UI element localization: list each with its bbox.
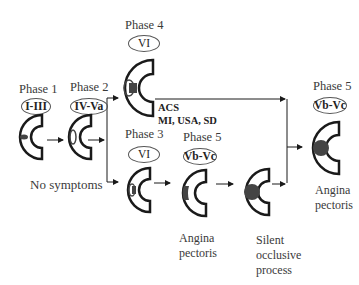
no-symptoms-label: No symptoms	[30, 178, 103, 192]
phase-2-label: Phase 2	[70, 80, 109, 94]
vessel-icon-phase-3	[124, 166, 154, 214]
phase-5-label-middle: Phase 5	[183, 130, 222, 144]
vessel-icon-phase-5-right	[311, 120, 343, 176]
silent-occlusive-process-label: Silent occlusive process	[256, 233, 301, 278]
angina-pectoris-label-right: Angina pectoris	[315, 183, 353, 213]
angina-pectoris-label-middle: Angina pectoris	[179, 231, 217, 261]
stage-badge-vi-top: VI	[128, 35, 160, 52]
phase-1-label: Phase 1	[19, 82, 58, 96]
stage-badge-vi-bottom: VI	[128, 146, 160, 163]
acs-detail-label: MI, USA, SD	[158, 114, 217, 127]
vessel-icon-phase-4	[120, 58, 156, 118]
vessel-icon-phase-1	[16, 113, 46, 161]
phase-5-label-right: Phase 5	[313, 79, 352, 93]
vessel-icon-phase-5-middle	[180, 168, 210, 218]
phase-4-label: Phase 4	[125, 18, 164, 32]
phase-3-label: Phase 3	[125, 127, 164, 141]
vessel-icon-phase-2	[65, 113, 95, 161]
acs-label: ACS	[158, 101, 179, 114]
stage-badge-vb-vc-right: Vb-Vc	[313, 97, 347, 114]
vessel-icon-silent-occlusive	[243, 167, 273, 217]
stage-badge-vb-vc-middle: Vb-Vc	[183, 148, 217, 165]
